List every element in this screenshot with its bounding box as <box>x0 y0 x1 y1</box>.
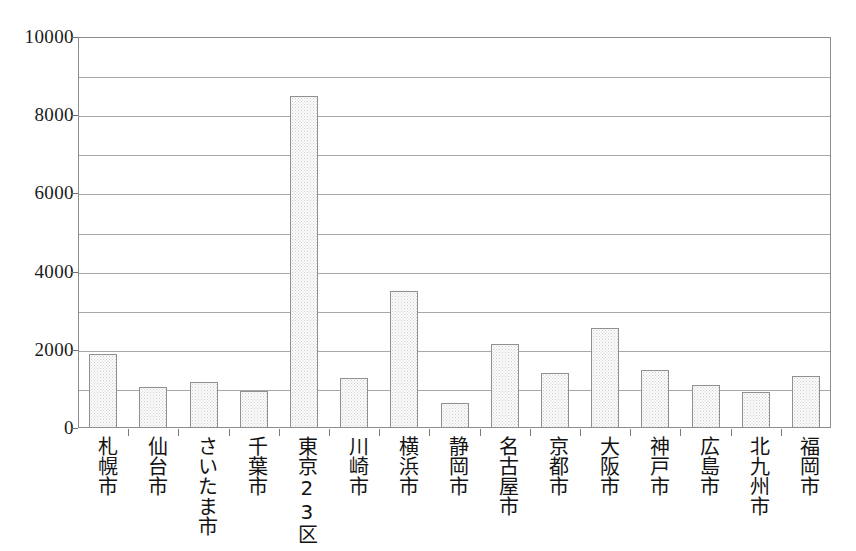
bar <box>390 291 418 428</box>
x-axis-label: 千葉市 <box>241 436 267 496</box>
x-axis-tick-mark <box>480 429 481 436</box>
x-axis-label: 大阪市 <box>592 436 618 496</box>
x-axis-tick-mark <box>630 429 631 436</box>
x-axis-tick-mark <box>731 429 732 436</box>
bar <box>641 370 669 428</box>
bar <box>591 328 619 428</box>
bar <box>290 96 318 428</box>
bar <box>742 392 770 428</box>
y-axis-tick-mark <box>71 428 78 429</box>
x-axis-tick-mark <box>429 429 430 436</box>
x-axis-label: 仙台市 <box>140 436 166 496</box>
y-axis-tick-mark <box>71 115 78 116</box>
x-axis-label: 福岡市 <box>793 436 819 496</box>
x-axis-tick-mark <box>530 429 531 436</box>
y-axis-tick-label: 4000 <box>34 262 74 281</box>
bar <box>89 354 117 428</box>
x-axis-label: 横浜市 <box>391 436 417 496</box>
x-axis-label: 広島市 <box>693 436 719 496</box>
x-axis-label: さいたま市 <box>191 436 217 536</box>
x-axis-tick-mark <box>781 429 782 436</box>
y-axis-tick-label: 10000 <box>25 27 75 46</box>
y-axis-tick-mark <box>71 350 78 351</box>
bar <box>491 344 519 428</box>
x-axis-tick-mark <box>279 429 280 436</box>
y-axis-tick-label: 8000 <box>34 105 74 124</box>
x-axis-label: 静岡市 <box>442 436 468 496</box>
x-axis-tick-mark <box>580 429 581 436</box>
y-axis-tick-label: 2000 <box>34 340 74 359</box>
x-axis-label: 北九州市 <box>743 436 769 516</box>
x-axis-label: 川崎市 <box>341 436 367 496</box>
y-axis-tick-mark <box>71 272 78 273</box>
bar <box>541 373 569 428</box>
y-axis-tick-mark <box>71 37 78 38</box>
bar <box>190 382 218 428</box>
x-axis-tick-mark <box>178 429 179 436</box>
x-axis-tick-mark <box>379 429 380 436</box>
bar <box>340 378 368 428</box>
bar-chart: 1000080006000400020000 札幌市仙台市さいたま市千葉市東京2… <box>0 0 856 551</box>
x-axis-label: 神戸市 <box>642 436 668 496</box>
x-axis-label: 名古屋市 <box>492 436 518 516</box>
bar <box>139 387 167 428</box>
y-axis-tick-mark <box>71 193 78 194</box>
x-axis-label: 札幌市 <box>90 436 116 496</box>
bar <box>692 385 720 428</box>
bars-group <box>78 37 831 428</box>
x-axis-tick-mark <box>229 429 230 436</box>
x-axis-tick-mark <box>329 429 330 436</box>
x-axis-tick-mark <box>680 429 681 436</box>
x-axis-label: 京都市 <box>542 436 568 496</box>
bar <box>441 403 469 428</box>
x-axis-tick-mark <box>128 429 129 436</box>
bar <box>240 391 268 428</box>
bar <box>792 376 820 428</box>
y-axis-tick-label: 6000 <box>34 183 74 202</box>
x-axis-label: 東京23区 <box>291 436 317 544</box>
